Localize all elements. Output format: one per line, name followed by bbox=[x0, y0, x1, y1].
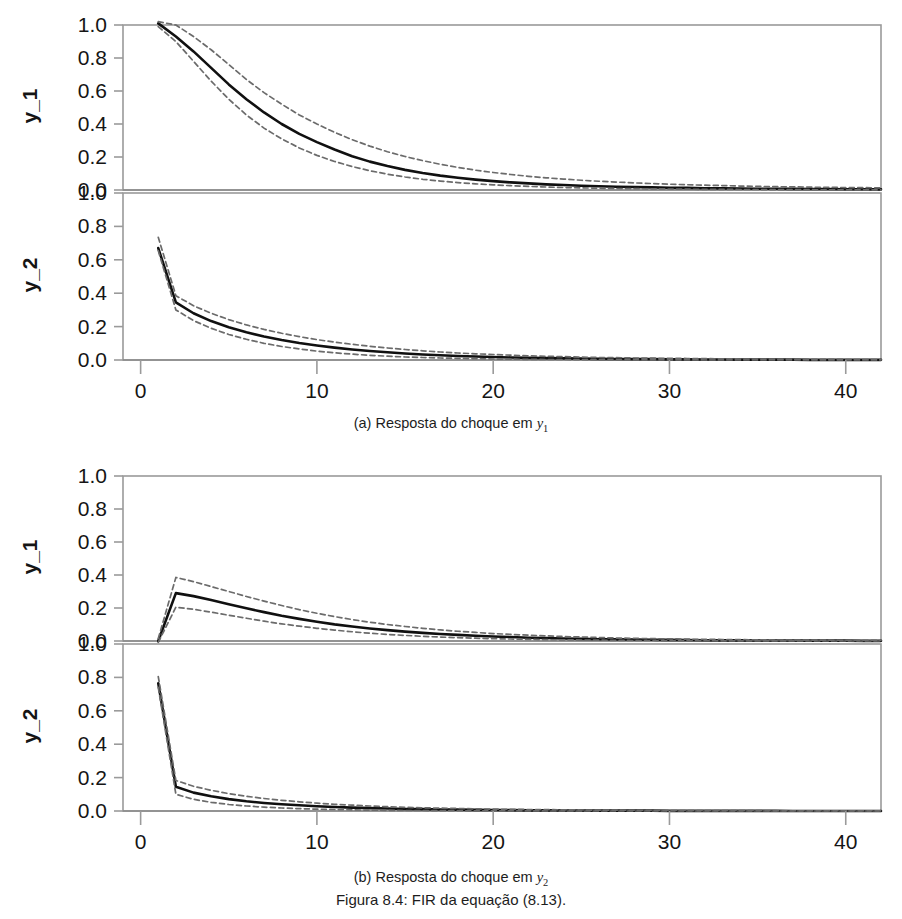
y-tick-label: 0.8 bbox=[78, 46, 107, 69]
subfigure-caption-b-text: (b) Resposta do choque em bbox=[354, 869, 533, 885]
series-dashed-band bbox=[158, 237, 881, 359]
y-axis-label-y1: y_1 bbox=[18, 76, 42, 136]
plot-frame bbox=[123, 193, 881, 360]
y-tick-label: 0.8 bbox=[78, 665, 107, 688]
series-dashed-band bbox=[158, 577, 881, 640]
subfigure-caption-a: (a) Resposta do choque em y1 bbox=[0, 415, 902, 434]
y-tick-label: 0.6 bbox=[78, 79, 107, 102]
y-tick-label: 0.6 bbox=[78, 530, 107, 553]
panel-b-y_2: 1.00.80.60.40.20.0 bbox=[78, 632, 881, 822]
x-tick-label: 40 bbox=[834, 379, 857, 400]
y-tick-label: 0.4 bbox=[78, 732, 108, 755]
y-tick-label: 0.0 bbox=[78, 799, 107, 822]
x-tick-label: 10 bbox=[305, 379, 328, 400]
series-dashed-band bbox=[158, 687, 881, 811]
x-tick-label: 20 bbox=[482, 379, 505, 400]
y-tick-label: 0.2 bbox=[78, 766, 107, 789]
y-axis-label-y2: y_2 bbox=[18, 696, 42, 756]
y-tick-label: 1.0 bbox=[78, 13, 107, 36]
figure-page: 1.00.80.60.40.20.01.00.80.60.40.20.00102… bbox=[0, 0, 902, 919]
x-tick-label: 10 bbox=[305, 830, 328, 853]
plot-frame bbox=[123, 644, 881, 811]
y-tick-label: 1.0 bbox=[78, 632, 107, 655]
y-tick-label: 0.8 bbox=[78, 497, 107, 520]
x-tick-label: 30 bbox=[658, 830, 681, 853]
y-axis-label-y2: y_2 bbox=[18, 245, 42, 305]
plot-canvas-a: 1.00.80.60.40.20.01.00.80.60.40.20.00102… bbox=[0, 0, 902, 400]
y-tick-label: 0.8 bbox=[78, 214, 107, 237]
y-tick-label: 0.4 bbox=[78, 112, 108, 135]
subfigure-caption-b-subscript: 2 bbox=[543, 877, 548, 888]
y-tick-label: 0.4 bbox=[78, 563, 108, 586]
series-solid-estimate bbox=[158, 248, 881, 360]
series-solid-estimate bbox=[158, 683, 881, 811]
subfigure-b: 1.00.80.60.40.20.01.00.80.60.40.20.00102… bbox=[0, 455, 902, 919]
x-tick-label: 0 bbox=[135, 830, 147, 853]
y-tick-label: 0.2 bbox=[78, 145, 107, 168]
y-tick-label: 0.2 bbox=[78, 596, 107, 619]
x-tick-label: 40 bbox=[834, 830, 857, 853]
x-tick-label: 30 bbox=[658, 379, 681, 400]
figure-caption: Figura 8.4: FIR da equação (8.13). bbox=[0, 891, 902, 908]
x-tick-label: 20 bbox=[482, 830, 505, 853]
subfigure-caption-a-subscript: 1 bbox=[543, 423, 548, 434]
y-tick-label: 1.0 bbox=[78, 181, 107, 204]
series-dashed-band bbox=[158, 251, 881, 360]
subfigure-a: 1.00.80.60.40.20.01.00.80.60.40.20.00102… bbox=[0, 0, 902, 455]
series-solid-estimate bbox=[158, 23, 881, 189]
series-solid-estimate bbox=[158, 593, 881, 641]
y-tick-label: 0.6 bbox=[78, 699, 107, 722]
series-dashed-band bbox=[158, 677, 881, 811]
panel-b-y_1: 1.00.80.60.40.20.0 bbox=[78, 464, 881, 652]
x-axis: 010203040 bbox=[135, 811, 858, 853]
plot-canvas-b: 1.00.80.60.40.20.01.00.80.60.40.20.00102… bbox=[0, 455, 902, 855]
panel-a-y_2: 1.00.80.60.40.20.0 bbox=[78, 181, 881, 371]
series-dashed-band bbox=[158, 22, 881, 188]
x-tick-label: 0 bbox=[135, 379, 147, 400]
plot-frame bbox=[123, 25, 881, 190]
y-tick-label: 1.0 bbox=[78, 464, 107, 487]
plot-frame bbox=[123, 476, 881, 641]
y-tick-label: 0.0 bbox=[78, 348, 107, 371]
y-axis-label-y1: y_1 bbox=[18, 527, 42, 587]
panel-a-y_1: 1.00.80.60.40.20.0 bbox=[78, 13, 881, 201]
x-axis: 010203040 bbox=[135, 360, 858, 400]
y-tick-label: 0.2 bbox=[78, 315, 107, 338]
subfigure-caption-b: (b) Resposta do choque em y2 bbox=[0, 869, 902, 888]
subfigure-caption-a-text: (a) Resposta do choque em bbox=[354, 415, 533, 431]
y-tick-label: 0.4 bbox=[78, 281, 108, 304]
series-dashed-band bbox=[158, 27, 881, 190]
y-tick-label: 0.6 bbox=[78, 248, 107, 271]
